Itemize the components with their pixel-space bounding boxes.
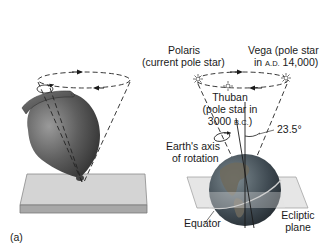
earth-globe — [209, 154, 285, 226]
label-thuban-desc-1: (pole star in — [203, 103, 258, 115]
base-plate — [20, 174, 147, 213]
precession-diagram: (a) — [0, 0, 336, 251]
spinning-top — [22, 91, 100, 181]
tilt-angle-arc — [245, 133, 260, 137]
label-thuban: Thuban — [212, 91, 248, 103]
label-polaris-desc: (current pole star) — [142, 56, 225, 68]
star-vega-icon — [281, 73, 291, 83]
label-ecliptic: Ecliptic — [281, 209, 314, 221]
star-polaris-icon — [193, 74, 203, 84]
label-axis-2: of rotation — [172, 152, 219, 164]
tilt-leader-line — [259, 130, 274, 134]
label-vega: Vega (pole star — [248, 44, 319, 56]
label-ecliptic-2: plane — [285, 221, 311, 233]
panel-label: (a) — [10, 231, 23, 243]
label-thuban-desc-2: 3000 B.C.) — [208, 115, 252, 127]
label-axis: Earth's axis — [166, 140, 220, 152]
earth-precession-arrows — [230, 72, 262, 88]
label-equator: Equator — [184, 217, 221, 229]
earth-precession-illustration: Polaris (current pole star) Vega (pole s… — [142, 44, 319, 233]
label-polaris: Polaris — [168, 44, 200, 56]
star-thuban-icon — [223, 81, 233, 91]
precession-direction-arrows — [72, 72, 104, 88]
label-tilt-angle: 23.5° — [277, 123, 302, 135]
spinning-top-illustration: (a) — [10, 72, 147, 243]
label-vega-desc: in A.D. 14,000) — [254, 56, 318, 68]
